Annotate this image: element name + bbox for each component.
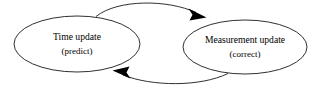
edge-correct-to-predict: [123, 74, 228, 84]
node-time-update-shape[interactable]: [14, 16, 140, 72]
node-measurement-update-shape[interactable]: [183, 20, 307, 74]
node-measurement-update-label: Measurement update: [205, 34, 285, 45]
kalman-cycle-diagram: Time update (predict) Measurement update…: [0, 0, 320, 88]
arrowhead-correct-to-predict-icon: [113, 67, 131, 79]
node-measurement-update-sublabel: (correct): [230, 49, 261, 59]
node-time-update-sublabel: (predict): [62, 46, 93, 56]
edge-predict-to-correct: [96, 3, 196, 16]
arrowhead-predict-to-correct-icon: [189, 9, 207, 21]
diagram-canvas: Time update (predict) Measurement update…: [0, 0, 320, 88]
node-time-update-label: Time update: [53, 31, 101, 42]
